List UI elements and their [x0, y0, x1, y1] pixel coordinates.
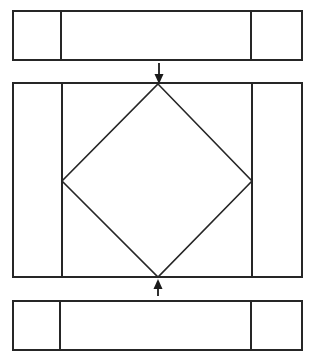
top-panel-outline: [13, 11, 302, 60]
bottom-panel-outline: [13, 301, 302, 350]
load-arrow-bottom: [154, 279, 163, 296]
figure-root: [0, 0, 311, 361]
middle-panel: [13, 83, 302, 277]
bottom-panel: [13, 301, 302, 350]
technical-drawing-canvas: [0, 0, 311, 361]
load-arrow-bottom-head: [154, 279, 163, 289]
top-panel: [13, 11, 302, 60]
load-arrow-top: [155, 63, 164, 84]
